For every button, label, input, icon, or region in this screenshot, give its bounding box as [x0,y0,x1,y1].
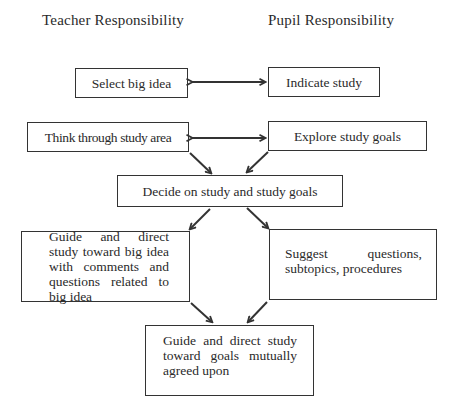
node-indicate-study: Indicate study [268,67,380,97]
arrow-decide-to-guide-big-idea [190,209,210,229]
arrow-think-to-decide [190,153,211,173]
node-suggest-questions: Suggest questions, subtopics, procedures [269,229,437,300]
node-guide-toward-agreed-goals: Guide and direct study toward goals mutu… [145,325,314,396]
node-label: Select big idea [92,76,171,91]
node-label: Explore study goals [294,129,401,144]
node-label: Decide on study and study goals [142,184,317,199]
teacher-responsibility-heading: Teacher Responsibility [42,12,184,29]
node-guide-toward-big-idea: Guide and direct study toward big idea w… [21,231,190,302]
node-think-through-study-area: Think through study area [27,122,189,152]
arrow-suggest-to-agreed [248,302,267,322]
node-label: Guide and direct study toward goals mutu… [163,333,297,378]
node-label: Suggest questions, subtopics, procedures [285,246,422,276]
arrow-guide-big-idea-to-agreed [191,303,212,322]
pupil-responsibility-heading: Pupil Responsibility [268,12,394,29]
node-label: Think through study area [45,130,172,145]
node-label: Guide and direct study toward big idea w… [49,229,169,304]
node-explore-study-goals: Explore study goals [268,121,427,151]
node-select-big-idea: Select big idea [75,68,188,98]
node-decide-study: Decide on study and study goals [117,175,343,207]
arrow-explore-to-decide [247,152,268,172]
node-label: Indicate study [286,75,362,90]
arrow-decide-to-suggest [247,208,268,228]
